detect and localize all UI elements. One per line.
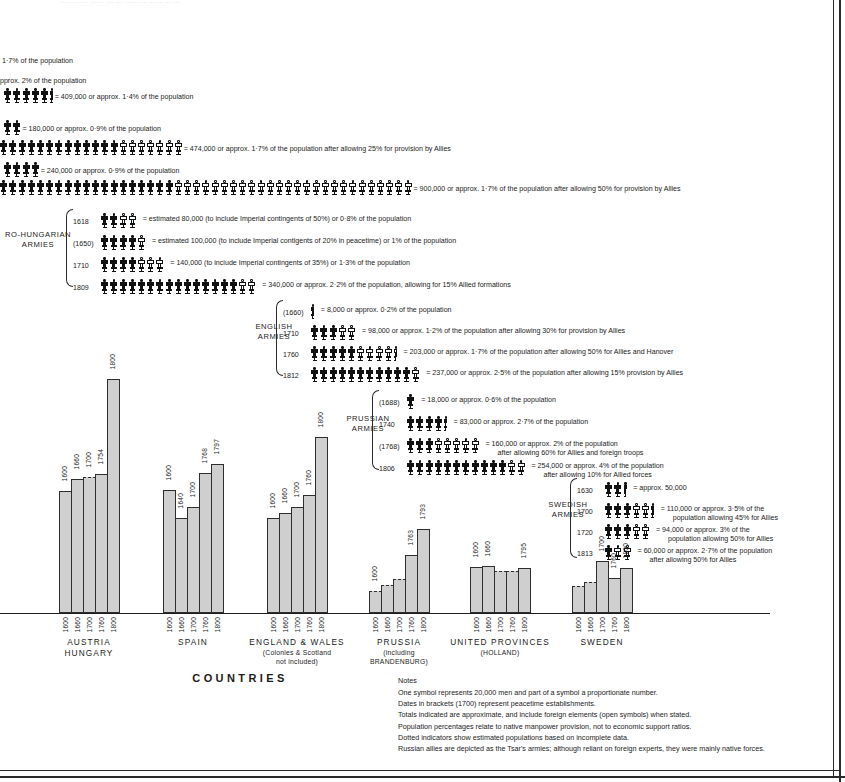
x-tick-label: 1700 — [294, 617, 301, 632]
pictogram-row-caption: = 409,000 or approx. 1·4% of the populat… — [55, 93, 194, 101]
bar-value-label: 1760 — [610, 553, 617, 568]
bar-value-label: 1793 — [419, 504, 426, 519]
x-tick-label: 1760 — [306, 617, 313, 632]
soldier-symbol-solid — [165, 279, 173, 295]
soldier-symbol-solid — [110, 279, 118, 295]
bar-segment — [315, 437, 328, 613]
chart-x-axis-title: COUNTRIES — [110, 672, 370, 684]
soldier-symbol-open — [193, 180, 201, 196]
soldier-symbol-solid — [147, 279, 155, 295]
army-row-caption-line: = 140,000 (to include Imperial contingen… — [170, 259, 410, 268]
soldier-symbol-solid — [110, 140, 118, 156]
soldier-symbol-solid — [119, 257, 127, 273]
pictogram-row-row-russian-180: = 180,000 or approx. 0·9% of the populat… — [4, 120, 161, 138]
x-tick-label: 1760 — [408, 617, 415, 632]
soldier-symbol-solid — [13, 120, 21, 136]
x-tick-label: 1700 — [190, 617, 197, 632]
notes-block: Notes One symbol represents 20,000 men a… — [398, 676, 765, 755]
soldier-symbol-open — [156, 257, 164, 273]
soldier-symbol-solid — [83, 180, 91, 196]
soldier-symbol-solid — [55, 140, 63, 156]
soldier-symbol-solid — [165, 180, 173, 196]
soldier-symbol-solid — [55, 180, 63, 196]
soldier-symbol-solid — [13, 162, 21, 178]
bar-value-label: 1797 — [213, 439, 220, 454]
soldier-symbol-solid — [119, 279, 127, 295]
soldier-symbol-open — [147, 257, 155, 273]
soldier-symbol-open — [147, 140, 155, 156]
country-label-austria-hungary: AUSTRIAHUNGARY — [29, 637, 149, 659]
bar-value-label: 1800 — [622, 543, 629, 558]
army-row-year: 1809 — [73, 284, 101, 292]
army-row-english-1660: (1660)= 8,000 or approx. 0·2% of the pop… — [283, 304, 452, 322]
x-tick-label: 1660 — [485, 617, 492, 632]
soldier-symbol-solid — [18, 180, 26, 196]
bar-segment — [620, 568, 633, 613]
army-row-caption: = estimated 80,000 (to include Imperial … — [143, 215, 411, 224]
symbol-row — [101, 279, 257, 297]
army-row-austro-hungarian-1710: 1710= 140,000 (to include Imperial conti… — [73, 257, 410, 275]
x-tick-label: 1600 — [372, 617, 379, 632]
soldier-symbol-open — [322, 180, 330, 196]
soldier-symbol-solid — [9, 180, 17, 196]
bar-value-label: 1700 — [598, 536, 605, 551]
symbol-row — [4, 88, 55, 106]
soldier-symbol-solid — [110, 180, 118, 196]
x-tick-label: 1760 — [98, 617, 105, 632]
soldier-symbol-open — [129, 140, 137, 156]
x-tick-label: 1600 — [270, 617, 277, 632]
country-label-line: SWEDEN — [542, 637, 662, 648]
soldier-symbol-solid — [83, 140, 91, 156]
soldier-symbol-solid — [129, 180, 137, 196]
x-tick-label: 1600 — [166, 617, 173, 632]
symbol-row — [101, 213, 138, 231]
soldier-symbol-solid — [101, 279, 109, 295]
x-tick-label: 1660 — [282, 617, 289, 632]
bar-value-label: 1660 — [281, 488, 288, 503]
soldier-symbol-solid — [92, 140, 100, 156]
soldier-symbol-solid — [4, 162, 12, 178]
army-row-caption: = 98,000 or approx. 1·2% of the populati… — [362, 327, 625, 336]
soldier-symbol-solid — [138, 279, 146, 295]
bar-value-label: 1600 — [472, 542, 479, 557]
x-tick-label: 1700 — [396, 617, 403, 632]
soldier-symbol-solid — [220, 279, 228, 295]
soldier-symbol-solid — [110, 235, 118, 251]
soldier-symbol-solid — [147, 180, 155, 196]
soldier-symbol-partial-solid — [311, 304, 314, 320]
country-label-line: RUSSIAN — [0, 637, 20, 648]
pictogram-row-caption: = 180,000 or approx. 0·9% of the populat… — [22, 125, 161, 133]
army-row-caption: = estimated 100,000 (to include Imperial… — [152, 237, 456, 246]
soldier-symbol-solid — [92, 180, 100, 196]
soldier-symbol-open — [175, 140, 183, 156]
notes-lines: One symbol represents 20,000 men and par… — [398, 687, 765, 755]
pictogram-row-row-474: = 474,000 or approx. 1·7% of the populat… — [0, 140, 451, 158]
x-tick-label: 1660 — [74, 617, 81, 632]
bar-value-label: 1760 — [305, 470, 312, 485]
soldier-symbol-solid — [129, 257, 137, 273]
soldier-symbol-solid — [74, 140, 82, 156]
soldier-symbol-solid — [74, 180, 82, 196]
bar-segment — [417, 529, 430, 613]
x-tick-label: 1800 — [623, 617, 630, 632]
bar-value-label: 1800 — [109, 354, 116, 369]
soldier-symbol-solid — [101, 180, 109, 196]
country-label-sub: (HOLLAND) — [440, 648, 560, 657]
symbol-row — [101, 235, 147, 253]
note-line: One symbol represents 20,000 men and par… — [398, 687, 765, 698]
soldier-symbol-solid — [202, 279, 210, 295]
soldier-symbol-solid — [110, 213, 118, 229]
country-label-sub: BRANDENBURG) — [339, 657, 459, 666]
soldier-symbol-open — [349, 180, 357, 196]
army-row-austro-hungarian-1618: 1618= estimated 80,000 (to include Imper… — [73, 213, 411, 231]
soldier-symbol-solid — [211, 279, 219, 295]
soldier-symbol-solid — [129, 235, 137, 251]
note-line: Totals indicated are approximate, and in… — [398, 709, 765, 720]
soldier-symbol-open — [202, 180, 210, 196]
soldier-symbol-open — [221, 180, 229, 196]
pictogram-row-row-900: = 900,000 or approx. 1·7% of the populat… — [0, 180, 681, 198]
bar-value-label: 1700 — [189, 482, 196, 497]
soldier-symbol-open — [165, 140, 173, 156]
army-row-caption: = 340,000 or approx. 2·2% of the populat… — [262, 281, 511, 290]
country-label-russian-states: RUSSIANSTATES — [0, 637, 20, 659]
